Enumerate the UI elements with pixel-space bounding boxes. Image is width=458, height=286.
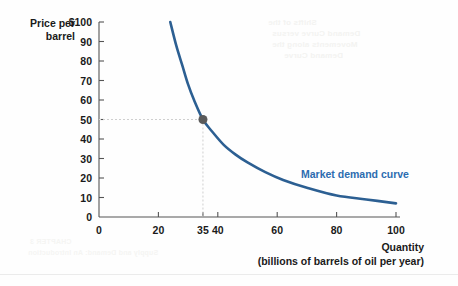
x-axis-label-line-1: Quantity	[381, 241, 424, 253]
x-axis-label-group: Quantity (billions of barrels of oil per…	[258, 241, 424, 267]
y-tick-label-70: 70	[80, 75, 92, 87]
figure-panel: Shifts of the Demand Curve versus Moveme…	[0, 0, 458, 286]
y-tick-label-100: $100	[69, 16, 93, 28]
x-axis-ticks: 02035406080100	[96, 212, 405, 236]
demand-curve-chart: Price per barrel $1009080706050403020100…	[0, 0, 458, 286]
market-demand-curve-label: Market demand curve	[301, 168, 409, 180]
y-tick-label-40: 40	[80, 133, 92, 145]
x-tick-label-60: 60	[271, 224, 283, 236]
x-tick-label-80: 80	[331, 224, 343, 236]
y-tick-label-10: 10	[80, 192, 92, 204]
y-tick-label-20: 20	[80, 172, 92, 184]
equilibrium-guide-lines	[99, 120, 203, 218]
x-tick-label-0: 0	[96, 224, 102, 236]
equilibrium-point-marker	[198, 115, 207, 124]
y-tick-label-80: 80	[80, 55, 92, 67]
y-tick-label-30: 30	[80, 153, 92, 165]
y-tick-label-0: 0	[86, 211, 92, 223]
y-tick-label-90: 90	[80, 36, 92, 48]
equilibrium-marker-group	[198, 115, 207, 124]
y-tick-label-60: 60	[80, 94, 92, 106]
x-axis-label-line-2: (billions of barrels of oil per year)	[258, 255, 424, 267]
x-tick-label-100: 100	[387, 224, 405, 236]
x-tick-label-40: 40	[212, 224, 224, 236]
y-axis-label-line-2: barrel	[46, 30, 75, 42]
footer-divider	[0, 274, 458, 275]
x-tick-label-35: 35	[197, 224, 209, 236]
y-tick-label-50: 50	[80, 114, 92, 126]
x-tick-label-20: 20	[153, 224, 165, 236]
